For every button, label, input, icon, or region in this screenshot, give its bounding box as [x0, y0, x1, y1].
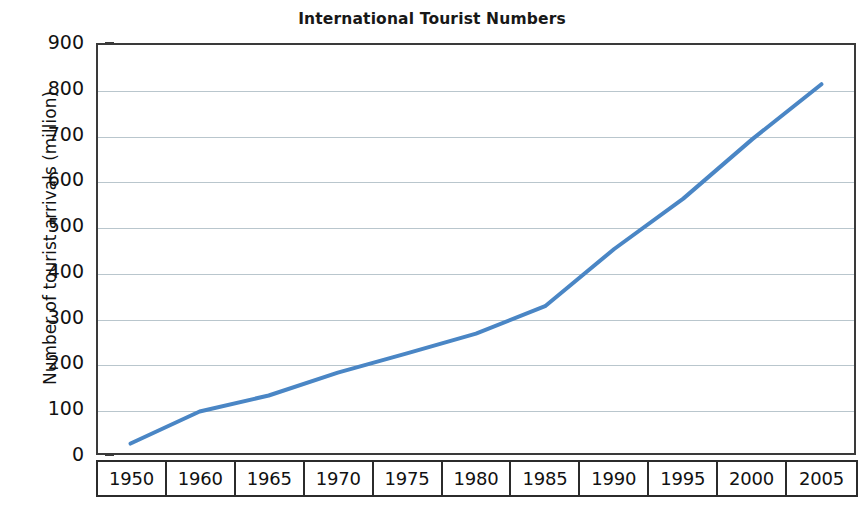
y-axis-tick-label: 400: [22, 262, 84, 281]
gridline: [98, 182, 854, 183]
x-axis-category-cell: 1970: [305, 462, 374, 495]
gridline: [98, 228, 854, 229]
plot-area: [96, 43, 856, 455]
gridline: [98, 365, 854, 366]
y-axis-tick-label: 300: [22, 308, 84, 327]
x-axis-category-cell: 1980: [443, 462, 512, 495]
gridline: [98, 411, 854, 412]
y-axis-tick-label: 500: [22, 216, 84, 235]
x-axis-category-cell: 1975: [374, 462, 443, 495]
x-axis-category-cell: 2005: [787, 462, 856, 495]
y-axis-tick-label: 700: [22, 125, 84, 144]
y-axis-tick-label: 600: [22, 170, 84, 189]
x-axis-category-cell: 1960: [167, 462, 236, 495]
y-axis-tick-label: 200: [22, 353, 84, 372]
x-axis-category-cell: 1995: [649, 462, 718, 495]
y-axis-tick-label: 0: [22, 445, 84, 464]
y-axis-tick-labels: 9008007006005004003002001000: [18, 0, 84, 510]
x-axis-category-cell: 1950: [98, 462, 167, 495]
x-axis-category-cell: 2000: [718, 462, 787, 495]
x-axis-category-cell: 1990: [580, 462, 649, 495]
x-axis-category-table: 1950196019651970197519801985199019952000…: [96, 460, 858, 497]
x-axis-category-cell: 1965: [236, 462, 305, 495]
gridline: [98, 137, 854, 138]
y-axis-tick-label: 100: [22, 399, 84, 418]
chart-title: International Tourist Numbers: [0, 9, 864, 29]
y-axis-tick-label: 900: [22, 33, 84, 52]
gridline: [98, 91, 854, 92]
y-axis-tick-label: 800: [22, 79, 84, 98]
gridline: [98, 320, 854, 321]
x-axis-category-cell: 1985: [511, 462, 580, 495]
gridline: [98, 274, 854, 275]
chart-container: International Tourist Numbers Number of …: [0, 0, 864, 510]
